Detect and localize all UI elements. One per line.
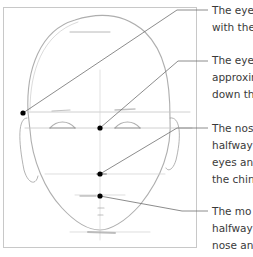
annotation-text: The eye <box>212 52 253 69</box>
leader-eye-spacing <box>100 61 208 128</box>
annotation-text: approxin <box>212 69 253 86</box>
annotation-mouth-position: The mo halfway nose an <box>212 203 253 254</box>
annotation-text: eyes and <box>212 154 253 171</box>
annotation-text: the chin <box>212 171 253 188</box>
annotation-text: down th <box>212 86 253 103</box>
dot-eye-spacing <box>97 125 102 130</box>
leader-nose <box>100 128 208 174</box>
annotation-text: The mo <box>212 203 253 220</box>
annotation-text: with the <box>212 19 253 36</box>
annotation-text: halfway <box>212 220 253 237</box>
annotation-text: nose an <box>212 237 253 254</box>
annotation-nose-position: The nos halfway eyes and the chin <box>212 120 253 188</box>
annotation-eye-spacing: The eye approxin down th <box>212 52 253 103</box>
annotation-eye-line: The eye with the <box>212 2 253 36</box>
leader-mouth <box>100 196 208 211</box>
annotation-text: halfway <box>212 137 253 154</box>
annotation-text: The eye <box>212 2 253 19</box>
annotation-text: The nos <box>212 120 253 137</box>
dot-eye-line <box>20 110 25 115</box>
marker-dots <box>20 110 102 198</box>
dot-nose <box>97 171 102 176</box>
face-sketch <box>20 16 192 240</box>
face-proportions-diagram: The eye with the The eye approxin down t… <box>0 0 253 257</box>
leader-eye-line <box>23 10 208 113</box>
dot-mouth <box>97 193 102 198</box>
